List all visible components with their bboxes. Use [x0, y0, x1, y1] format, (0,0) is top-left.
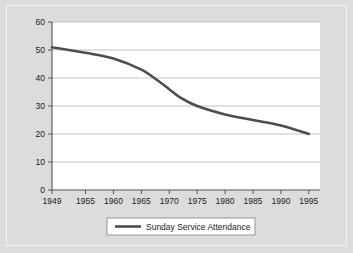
- legend-label-sunday-service-attendance: Sunday Service Attendance: [146, 222, 251, 232]
- x-tick-label: 1990: [271, 196, 290, 206]
- x-tick-label: 1965: [132, 196, 151, 206]
- y-tick-label: 10: [36, 157, 46, 167]
- y-tick-label: 20: [36, 129, 46, 139]
- y-tick-label: 0: [40, 185, 45, 195]
- x-tick-group: [52, 190, 309, 194]
- chart-legend: Sunday Service Attendance: [107, 218, 255, 235]
- y-tick-label-group: 0102030405060: [36, 17, 46, 195]
- x-tick-label: 1970: [160, 196, 179, 206]
- y-tick-label: 40: [36, 73, 46, 83]
- line-chart: 0102030405060 19491955196019651970197519…: [0, 0, 353, 253]
- x-tick-label: 1949: [43, 196, 62, 206]
- chart-figure: 0102030405060 19491955196019651970197519…: [0, 0, 353, 253]
- x-tick-label: 1980: [216, 196, 235, 206]
- x-tick-label: 1955: [76, 196, 95, 206]
- y-tick-label: 30: [36, 101, 46, 111]
- x-tick-label: 1985: [244, 196, 263, 206]
- y-tick-label: 60: [36, 17, 46, 27]
- y-tick-label: 50: [36, 45, 46, 55]
- x-tick-label: 1995: [299, 196, 318, 206]
- x-tick-label-group: 1949195519601965197019751980198519901995: [43, 196, 319, 206]
- x-tick-label: 1975: [188, 196, 207, 206]
- x-tick-label: 1960: [104, 196, 123, 206]
